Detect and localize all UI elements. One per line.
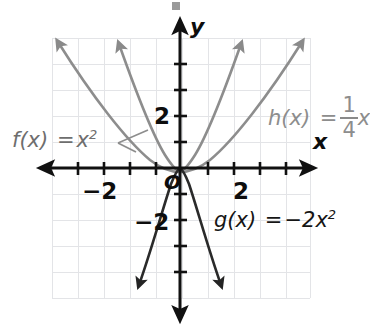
function-label-g-equals: =	[265, 208, 283, 232]
fraction-numerator: 1	[340, 95, 357, 116]
xtick-label-minus2: −2	[82, 180, 117, 203]
function-label-h-equals: =	[320, 106, 338, 130]
function-label-h-name: h(x)	[268, 106, 310, 130]
origin-label: O	[164, 172, 181, 192]
function-label-f-body: x	[77, 128, 89, 152]
function-label-f-name: f(x)	[12, 128, 48, 152]
function-label-h-tail: x	[358, 106, 370, 130]
function-label-h-fraction: 1 4	[340, 95, 357, 142]
ytick-label-2: 2	[154, 105, 170, 128]
function-label-g: g(x) =−2x2	[214, 208, 336, 231]
function-label-g-body: −2x	[284, 208, 327, 232]
function-label-f-equals: =	[57, 128, 75, 152]
function-label-g-exponent: 2	[328, 207, 336, 222]
function-label-h: h(x) = 1 4 x	[268, 96, 370, 143]
function-label-g-name: g(x)	[214, 208, 256, 232]
axis-label-y: y	[190, 16, 204, 38]
ytick-label-minus2: −2	[134, 211, 169, 234]
function-label-f: f(x) =x2	[12, 128, 97, 151]
function-label-f-exponent: 2	[89, 127, 97, 142]
xtick-label-2: 2	[233, 180, 249, 203]
fraction-denominator: 4	[340, 120, 357, 141]
